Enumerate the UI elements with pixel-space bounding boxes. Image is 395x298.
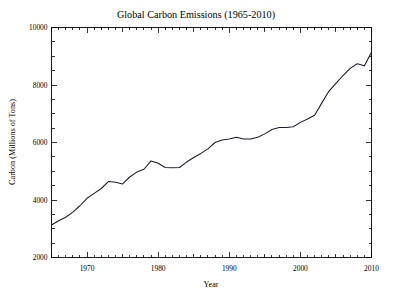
y-axis-label: Carbon (Millions of Tons)	[8, 99, 17, 185]
axis-tick-label: 1970	[80, 264, 95, 273]
figure-background	[0, 0, 395, 298]
chart-figure: Global Carbon Emissions (1965-2010) 1970…	[0, 0, 395, 298]
page-title: Global Carbon Emissions (1965-2010)	[117, 9, 275, 21]
axis-tick-label: 6000	[33, 138, 48, 147]
axis-tick-label: 10000	[29, 23, 48, 32]
axis-tick-label: 2010	[364, 264, 379, 273]
axis-tick-label: 2000	[293, 264, 308, 273]
x-axis-label: Year	[203, 280, 218, 289]
axis-tick-label: 2000	[33, 253, 48, 262]
axis-tick-label: 1990	[222, 264, 237, 273]
axis-tick-label: 4000	[33, 196, 48, 205]
axis-tick-label: 8000	[33, 81, 48, 90]
axis-tick-label: 1980	[151, 264, 166, 273]
carbon-emissions-line-chart: Global Carbon Emissions (1965-2010) 1970…	[0, 0, 395, 298]
